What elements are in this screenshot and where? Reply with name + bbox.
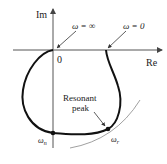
- omega-r-point: [106, 127, 111, 132]
- resonant-peak-label-line2: peak: [72, 103, 89, 113]
- omega-zero-arrow: [108, 31, 126, 48]
- omega-n-point: [51, 131, 56, 136]
- omega-n-sub: n: [44, 140, 47, 146]
- resonant-peak-label-line1: Resonant: [63, 93, 97, 103]
- polar-plot-diagram: Im Re 0 ω = ∞ ω = 0 Resonant peak ωn ωr: [0, 0, 167, 164]
- omega-r-sub: r: [117, 139, 120, 145]
- im-axis-label: Im: [36, 9, 47, 20]
- origin-label: 0: [57, 54, 62, 65]
- omega-zero-label: ω = 0: [123, 21, 145, 31]
- re-axis-label: Re: [146, 57, 158, 68]
- resonant-peak-arrow: [94, 112, 105, 126]
- omega-infinity-label: ω = ∞: [72, 21, 95, 31]
- omega-infinity-arrow: [57, 31, 76, 48]
- omega-r-label: ωr: [111, 135, 120, 145]
- omega-n-label: ωn: [38, 136, 47, 146]
